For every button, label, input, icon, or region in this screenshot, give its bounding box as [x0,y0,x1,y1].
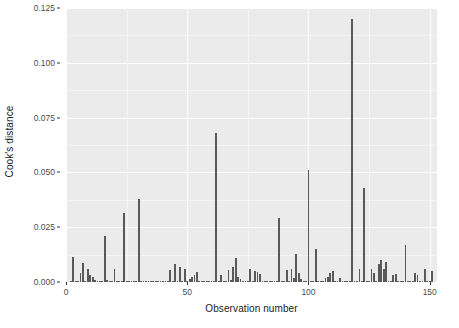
x-axis: 050100150 [66,282,437,304]
y-axis-tick-mark [57,8,60,9]
bar [405,245,407,282]
bar [424,269,426,282]
x-axis-tick-mark [66,282,67,285]
y-axis-tick-label: 0.075 [34,113,55,123]
y-axis-tick-labels: 0.0000.0250.0500.0750.1000.125 [20,0,60,300]
bar [286,270,288,282]
gridline-minor-horizontal [66,35,437,36]
bar [359,269,361,282]
gridline-major-horizontal [66,8,437,9]
gridline-major-vertical [187,8,188,282]
gridline-major-horizontal [66,172,437,173]
y-axis-tick-mark [57,227,60,228]
bar [184,269,186,282]
x-axis-title: Observation number [66,303,437,314]
bar [249,269,251,282]
y-axis-tick-mark [57,172,60,173]
y-axis-tick-label: 0.000 [34,277,55,287]
gridline-minor-horizontal [66,255,437,256]
x-axis-tick-label: 100 [301,287,315,297]
x-axis-tick-mark [430,282,431,285]
gridline-major-horizontal [66,63,437,64]
bar [179,267,181,282]
bar [332,271,334,282]
bar [138,199,140,282]
y-axis-tick-label: 0.125 [34,3,55,13]
y-axis-tick-label: 0.100 [34,58,55,68]
bar [104,236,106,282]
bar [174,264,176,282]
gridline-major-vertical [430,8,431,282]
bar [278,218,280,282]
y-axis-tick-mark [57,62,60,63]
y-axis-title-text: Cook's distance [5,105,16,177]
bar [385,262,387,282]
y-axis-tick-mark [57,282,60,283]
gridline-minor-vertical [127,8,128,282]
y-axis-tick-mark [57,117,60,118]
plot-panel [66,8,437,282]
y-axis-title: Cook's distance [0,0,20,282]
bar [82,263,84,282]
gridline-major-horizontal [66,227,437,228]
gridline-minor-vertical [248,8,249,282]
bar [123,213,125,282]
gridline-minor-vertical [369,8,370,282]
gridline-major-vertical [66,8,67,282]
bar [114,269,116,282]
bar [431,271,433,282]
x-axis-tick-mark [187,282,188,285]
bar [215,133,217,282]
gridline-minor-horizontal [66,200,437,201]
gridline-major-horizontal [66,118,437,119]
bar [72,257,74,282]
x-axis-tick-label: 0 [64,287,69,297]
y-axis-tick-label: 0.050 [34,167,55,177]
x-axis-tick-label: 50 [183,287,192,297]
bar [363,188,365,282]
y-axis-tick-label: 0.025 [34,222,55,232]
bar [351,19,353,282]
gridline-minor-horizontal [66,145,437,146]
bar [315,249,317,282]
bar [308,170,310,282]
cooks-distance-chart: Cook's distance 0.0000.0250.0500.0750.10… [0,0,459,328]
bar [169,270,171,282]
x-axis-tick-label: 150 [423,287,437,297]
x-axis-tick-mark [308,282,309,285]
gridline-minor-horizontal [66,90,437,91]
